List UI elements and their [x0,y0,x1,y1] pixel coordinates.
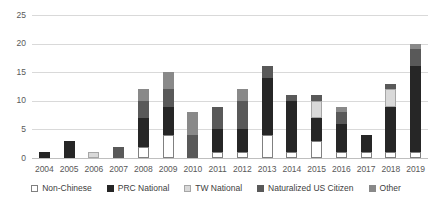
x-tick-label-2013: 2013 [255,164,280,175]
legend-item-naturalized-us-citizen: Naturalized US Citizen [257,183,354,193]
gridline-15 [32,72,428,73]
legend-label-non-chinese: Non-Chinese [42,183,92,193]
y-tick-label-25: 25 [0,10,26,21]
bar-2009-prc-national [163,107,174,136]
chart-legend: Non-ChinesePRC NationalTW NationalNatura… [0,183,432,193]
bar-2009-other [163,72,174,89]
y-tick-label-20: 20 [0,38,26,49]
bar-2012-naturalized-us-citizen [237,101,248,130]
gridline-25 [32,15,428,16]
x-tick-label-2015: 2015 [304,164,329,175]
bar-2008-other [138,89,149,100]
bar-2015-non-chinese [311,141,322,158]
x-tick-label-2004: 2004 [32,164,57,175]
bar-2012-prc-national [237,129,248,152]
legend-item-non-chinese: Non-Chinese [31,183,92,193]
x-tick-label-2010: 2010 [181,164,206,175]
x-tick-label-2016: 2016 [329,164,354,175]
legend-label-prc-national: PRC National [118,183,170,193]
legend-item-prc-national: PRC National [107,183,170,193]
bar-2015-naturalized-us-citizen [311,95,322,101]
stacked-bar-chart: Non-ChinesePRC NationalTW NationalNatura… [0,0,432,206]
bar-2010-naturalized-us-citizen [187,135,198,158]
bar-2019-naturalized-us-citizen [410,49,421,66]
bar-2017-prc-national [361,135,372,152]
bar-2008-non-chinese [138,147,149,158]
bar-2009-naturalized-us-citizen [163,89,174,106]
bar-2010-other [187,112,198,135]
x-tick-label-2007: 2007 [106,164,131,175]
bar-2008-naturalized-us-citizen [138,101,149,118]
x-axis-line [32,158,428,159]
bar-2011-non-chinese [212,152,223,158]
y-tick-label-5: 5 [0,124,26,135]
bar-2019-non-chinese [410,152,421,158]
bar-2016-other [336,107,347,113]
bar-2019-prc-national [410,66,421,152]
bar-2011-prc-national [212,129,223,152]
bar-2009-non-chinese [163,135,174,158]
x-tick-label-2009: 2009 [156,164,181,175]
y-tick-label-10: 10 [0,95,26,106]
legend-label-other: Other [380,183,401,193]
bar-2015-prc-national [311,118,322,141]
bar-2014-prc-national [286,101,297,152]
legend-item-other: Other [369,183,401,193]
bar-2005-prc-national [64,141,75,158]
x-tick-label-2014: 2014 [280,164,305,175]
legend-swatch-prc-national [107,185,114,192]
bar-2018-naturalized-us-citizen [385,84,396,90]
bar-2017-non-chinese [361,152,372,158]
bar-2018-tw-national [385,89,396,106]
bar-2012-non-chinese [237,152,248,158]
bar-2013-non-chinese [262,135,273,158]
y-tick-label-15: 15 [0,67,26,78]
x-tick-label-2008: 2008 [131,164,156,175]
bar-2014-naturalized-us-citizen [286,95,297,101]
gridline-10 [32,101,428,102]
bar-2016-non-chinese [336,152,347,158]
x-tick-label-2011: 2011 [205,164,230,175]
bar-2019-other [410,44,421,50]
bar-2007-naturalized-us-citizen [113,147,124,158]
legend-swatch-tw-national [184,185,191,192]
x-tick-label-2012: 2012 [230,164,255,175]
legend-label-naturalized-us-citizen: Naturalized US Citizen [268,183,354,193]
bar-2018-prc-national [385,107,396,153]
bar-2006-tw-national [88,152,99,158]
bar-2014-non-chinese [286,152,297,158]
legend-swatch-naturalized-us-citizen [257,185,264,192]
x-tick-label-2005: 2005 [57,164,82,175]
legend-swatch-other [369,185,376,192]
bar-2016-prc-national [336,124,347,153]
bar-2013-prc-national [262,78,273,135]
bar-2015-tw-national [311,101,322,118]
legend-swatch-non-chinese [31,185,38,192]
x-tick-label-2017: 2017 [354,164,379,175]
x-tick-label-2006: 2006 [82,164,107,175]
gridline-20 [32,44,428,45]
bar-2016-naturalized-us-citizen [336,112,347,123]
legend-item-tw-national: TW National [184,183,242,193]
legend-label-tw-national: TW National [195,183,242,193]
bar-2011-naturalized-us-citizen [212,107,223,130]
gridline-5 [32,129,428,130]
y-tick-label-0: 0 [0,153,26,164]
x-tick-label-2018: 2018 [379,164,404,175]
bar-2018-non-chinese [385,152,396,158]
bar-2004-prc-national [39,152,50,158]
x-tick-label-2019: 2019 [403,164,428,175]
bar-2008-prc-national [138,118,149,147]
bar-2012-other [237,89,248,100]
bar-2013-naturalized-us-citizen [262,66,273,77]
